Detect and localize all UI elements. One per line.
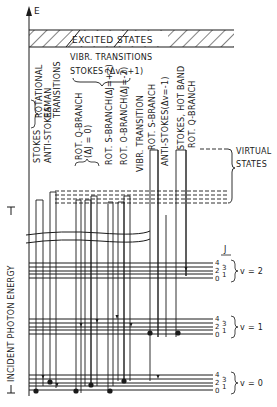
svg-text:2: 2 [215, 267, 219, 275]
svg-text:2: 2 [215, 379, 219, 387]
svg-text:4: 4 [215, 315, 220, 323]
brace-icon [231, 372, 238, 394]
excited-states-label: EXCITED STATES [72, 35, 153, 45]
vib-level-v0 [29, 375, 213, 390]
header-vibr-transitions: VIBR. TRANSITIONS [70, 53, 152, 62]
incident-photon-energy: INCIDENT PHOTON ENERGY [7, 207, 16, 393]
label-vibr-transition: VIBR. TRANSITION [136, 95, 145, 172]
label-rot-q-branch: ROT. Q-BRANCH [75, 92, 84, 160]
header-transitions: TRANSITIONS [53, 61, 62, 119]
vib-level-v1 [29, 319, 213, 334]
axis-break [26, 231, 150, 243]
label-anti-stokes: ANTI-STOKES [44, 106, 53, 163]
level-labels-v2: 4 3 2 1 0 v = 2 [215, 259, 263, 283]
brace-icon [231, 316, 238, 338]
svg-text:1: 1 [222, 327, 226, 335]
virtual-states-label-1: VIRTUAL [236, 147, 272, 156]
svg-text:2: 2 [215, 323, 219, 331]
label-rot-s-branch: ROT. S-BRANCH(ΔJ=+2) [105, 64, 114, 165]
svg-text:4: 4 [215, 259, 220, 267]
svg-text:0: 0 [215, 387, 219, 395]
v2-label: v = 2 [240, 267, 263, 276]
svg-text:1: 1 [222, 383, 226, 391]
j-label: J [223, 245, 227, 254]
v1-label: v = 1 [240, 323, 263, 332]
header-rotational: ROTATIONAL [35, 64, 44, 118]
brace-icon [228, 149, 235, 203]
energy-axis: E [26, 6, 40, 396]
axis-label-e: E [34, 6, 40, 16]
label-rot-o-branch: ROT. O-BRANCH(ΔJ=-2) [120, 66, 129, 165]
label-stokes-hot-band: STOKES, HOT BAND [177, 66, 186, 150]
vib-level-v2 [29, 263, 213, 278]
svg-text:0: 0 [215, 275, 219, 283]
incident-photon-energy-label: INCIDENT PHOTON ENERGY [7, 265, 16, 382]
label-rot-q-branch-2: ROT. Q-BRANCH [188, 80, 197, 148]
excited-states-band: EXCITED STATES [29, 30, 234, 47]
svg-text:4: 4 [215, 371, 220, 379]
virtual-states-label-2: STATES [236, 160, 267, 169]
brace-icon [231, 260, 238, 282]
raman-energy-diagram: E EXCITED STATES ROTATIONAL RAMAN TRANSI… [0, 0, 277, 407]
label-rot-s-branch-2: ROT. S-BRANCH [148, 84, 157, 150]
svg-text:0: 0 [215, 331, 219, 339]
v0-label: v = 0 [240, 379, 263, 388]
label-rot-q-branch-dj: (ΔJ = 0) [84, 125, 93, 158]
svg-text:1: 1 [222, 271, 226, 279]
level-labels-v0: 4 3 2 1 0 v = 0 [215, 371, 263, 395]
label-anti-stokes-dv: ANTI-STOKES(Δv=-1) [161, 76, 170, 166]
level-labels-v1: 4 3 2 1 0 v = 1 [215, 315, 263, 339]
arrow-up-icon [26, 6, 32, 16]
label-stokes: STOKES [33, 130, 42, 163]
